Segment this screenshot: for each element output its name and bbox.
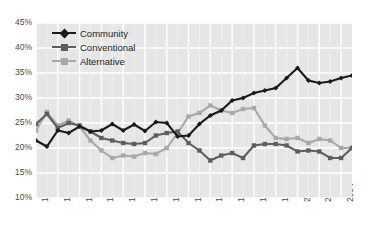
legend-label-community: Community bbox=[76, 28, 128, 39]
legend-marker-alternative-icon bbox=[52, 54, 76, 68]
line-chart: 45%40%35%30%25%20%15%10% 197619781980198… bbox=[0, 0, 368, 252]
series-conventional bbox=[36, 112, 352, 163]
y-tick-label: 35% bbox=[0, 67, 32, 77]
y-tick-label: 15% bbox=[0, 167, 32, 177]
legend-item-alternative: Alternative bbox=[52, 54, 160, 68]
y-tick-label: 20% bbox=[0, 142, 32, 152]
y-tick-label: 40% bbox=[0, 42, 32, 52]
series-community bbox=[36, 66, 352, 150]
chart-legend: Community Conventional Alternative bbox=[52, 26, 160, 68]
legend-marker-community-icon bbox=[52, 26, 76, 40]
legend-item-conventional: Conventional bbox=[52, 40, 160, 54]
legend-item-community: Community bbox=[52, 26, 160, 40]
y-tick-label: 45% bbox=[0, 17, 32, 27]
y-tick-label: 25% bbox=[0, 117, 32, 127]
legend-marker-conventional-icon bbox=[52, 40, 76, 54]
y-tick-label: 30% bbox=[0, 92, 32, 102]
y-tick-label: 10% bbox=[0, 192, 32, 202]
legend-label-alternative: Alternative bbox=[76, 56, 125, 67]
legend-label-conventional: Conventional bbox=[76, 42, 135, 53]
